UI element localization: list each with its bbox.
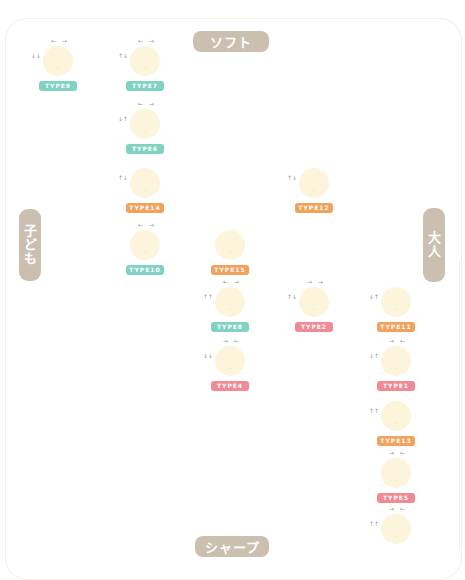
direction-arrows-icon: → → [307, 279, 325, 285]
type-node[interactable]: ← → TYPE10 [115, 219, 175, 279]
type-node[interactable]: ← → ↓↓ TYPE9 [28, 35, 88, 95]
direction-arrows-icon: ↓↓ [203, 353, 209, 359]
type-badge: TYPE12 [295, 203, 333, 213]
type-badge: TYPE10 [126, 265, 164, 275]
face-icon [215, 346, 245, 376]
face-icon [215, 287, 245, 317]
direction-arrows-icon: → ← [389, 506, 407, 512]
face-icon [299, 287, 329, 317]
type-badge: TYPE9 [39, 81, 77, 91]
face-icon [43, 46, 73, 76]
face-icon [130, 109, 160, 139]
type-node[interactable]: → ← TYPE5 [366, 447, 426, 507]
type-badge: TYPE13 [377, 436, 415, 446]
type-badge: TYPE6 [126, 144, 164, 154]
direction-arrows-icon: ← → [138, 101, 156, 107]
type-node[interactable]: → → ↑↓ TYPE2 [284, 276, 344, 336]
direction-arrows-icon: ↑↑ [369, 408, 375, 414]
type-node[interactable]: ← → ↑↑ TYPE8 [200, 276, 260, 336]
edge-divider [459, 260, 460, 550]
type-node[interactable]: → ← ↓↓ TYPE4 [200, 335, 260, 395]
type-node[interactable]: ← → ↑↓ TYPE7 [115, 35, 175, 95]
direction-arrows-icon: ↓↑ [369, 294, 375, 300]
direction-arrows-icon: ↓↑ [118, 116, 124, 122]
direction-arrows-icon: → ← [223, 338, 241, 344]
axis-label-top: ソフト [193, 31, 269, 52]
face-icon [130, 46, 160, 76]
direction-arrows-icon: ↑↓ [287, 294, 293, 300]
direction-arrows-icon: ↓↓ [31, 53, 37, 59]
axis-label-left: 子ども [19, 209, 41, 281]
type-badge: TYPE7 [126, 81, 164, 91]
direction-arrows-icon: ↑↓ [287, 175, 293, 181]
type-node[interactable]: ← → ↓↑ TYPE6 [115, 98, 175, 158]
type-node[interactable]: → ← ↓↑ TYPE1 [366, 335, 426, 395]
direction-arrows-icon: → ← [389, 450, 407, 456]
direction-arrows-icon: ← → [223, 279, 241, 285]
face-icon [215, 230, 245, 260]
direction-arrows-icon: ↑↓ [118, 175, 124, 181]
type-node[interactable]: ↑↑ TYPE13 [366, 390, 426, 450]
type-badge: TYPE4 [211, 381, 249, 391]
face-icon [381, 287, 411, 317]
face-icon [299, 168, 329, 198]
type-badge: TYPE8 [211, 322, 249, 332]
type-badge: TYPE15 [211, 265, 249, 275]
face-icon [381, 458, 411, 488]
type-node[interactable]: → ← ↑↑ [366, 503, 426, 563]
direction-arrows-icon: ← → [138, 38, 156, 44]
type-node[interactable]: ↑↓ TYPE14 [115, 157, 175, 217]
direction-arrows-icon: ← → [138, 222, 156, 228]
face-icon [381, 401, 411, 431]
type-badge: TYPE11 [377, 322, 415, 332]
direction-arrows-icon: ← → [51, 38, 69, 44]
axis-label-right: 大人 [423, 208, 445, 282]
direction-arrows-icon: ↑↑ [203, 294, 209, 300]
face-icon [381, 514, 411, 544]
direction-arrows-icon: ↑↓ [118, 53, 124, 59]
type-badge: TYPE14 [126, 203, 164, 213]
direction-arrows-icon: ↓↑ [369, 353, 375, 359]
type-node[interactable]: ↓↑ TYPE11 [366, 276, 426, 336]
type-node[interactable]: ↑↓ TYPE12 [284, 157, 344, 217]
face-icon [130, 230, 160, 260]
face-icon [130, 168, 160, 198]
type-badge: TYPE5 [377, 493, 415, 503]
axis-label-bottom: シャープ [195, 536, 269, 557]
direction-arrows-icon: ↑↑ [369, 521, 375, 527]
direction-arrows-icon: → ← [389, 338, 407, 344]
type-badge: TYPE2 [295, 322, 333, 332]
face-icon [381, 346, 411, 376]
type-node[interactable]: TYPE15 [200, 219, 260, 279]
